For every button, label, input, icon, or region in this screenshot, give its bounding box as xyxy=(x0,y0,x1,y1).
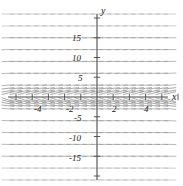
x-tick-label: -4 xyxy=(34,105,42,114)
x-tick-label: 4 xyxy=(144,105,149,114)
x-axis-label: x xyxy=(172,92,176,102)
y-tick-label: -15 xyxy=(69,154,81,163)
y-tick-label: -5 xyxy=(74,114,82,123)
y-tick-label: -10 xyxy=(69,134,81,143)
y-tick-label: 15 xyxy=(72,34,81,43)
x-tick-label: -2 xyxy=(66,105,74,114)
axes-group xyxy=(8,14,178,180)
y-axis-label: y xyxy=(101,6,105,16)
x-tick-label: 2 xyxy=(112,105,117,114)
slope-field-plot xyxy=(0,0,183,186)
y-tick-label: 10 xyxy=(72,54,81,63)
slope-field-figure: -4-22415105-5-10-15 x y xyxy=(0,0,183,186)
y-tick-label: 5 xyxy=(78,74,83,83)
